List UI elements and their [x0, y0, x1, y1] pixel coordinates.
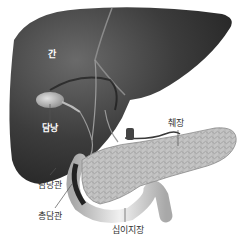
- label-liver: 간: [48, 49, 56, 59]
- label-common-bile-duct: 총담관: [38, 211, 62, 221]
- label-pancreas: 췌장: [168, 118, 184, 128]
- vessel-stub: [126, 128, 134, 140]
- label-gallbladder: 담낭: [42, 123, 58, 133]
- anatomy-illustration: [0, 0, 240, 243]
- label-cystic-duct: 담낭관: [38, 180, 62, 190]
- label-duodenum: 십이지장: [112, 225, 144, 235]
